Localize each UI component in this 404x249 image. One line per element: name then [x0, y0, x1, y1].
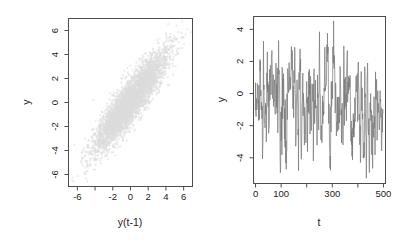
y-tick-label: -2: [234, 121, 245, 129]
x-tick-label: 0: [253, 188, 258, 199]
y-tick-label: 4: [234, 27, 245, 32]
y-tick-label: -6: [49, 170, 60, 178]
y-tick-label: 0: [49, 100, 60, 105]
figure-container: -6-20246-6-4-20246y(t-1)y 0100300500-4-2…: [0, 0, 404, 249]
scatter-plot: -6-20246-6-4-20246y(t-1)y: [0, 0, 202, 249]
y-tick-label: -4: [234, 154, 245, 162]
y-axis-title: y: [215, 96, 227, 102]
x-tick-label: -2: [109, 191, 117, 202]
x-axis-series: 0100300500: [253, 184, 391, 200]
y-axis-series: -4-2024: [234, 27, 254, 162]
x-tick-label: 100: [273, 188, 289, 199]
timeseries-line: [255, 21, 383, 178]
x-tick-label: -6: [73, 191, 81, 202]
x-tick-label: 0: [128, 191, 133, 202]
timeseries-line-group: [255, 21, 383, 178]
y-tick-label: 0: [234, 91, 245, 96]
x-axis-title: y(t-1): [118, 216, 143, 228]
y-tick-label: 4: [49, 52, 60, 57]
y-axis-title: y: [20, 99, 32, 105]
y-tick-label: 2: [49, 76, 60, 81]
x-tick-label: 6: [181, 191, 186, 202]
y-tick-label: 6: [49, 28, 60, 33]
x-axis-title: t: [318, 216, 321, 228]
x-tick-label: 4: [163, 191, 168, 202]
y-axis-scatter: -6-4-20246: [49, 28, 69, 179]
y-tick-label: 2: [234, 59, 245, 64]
y-tick-label: -4: [49, 146, 60, 154]
x-tick-label: 300: [324, 188, 340, 199]
y-tick-label: -2: [49, 122, 60, 130]
scatter-points-group: [68, 20, 192, 182]
x-tick-label: 500: [376, 188, 392, 199]
x-tick-label: 2: [146, 191, 151, 202]
panel-series: 0100300500-4-2024ty: [202, 0, 404, 249]
x-axis-scatter: -6-20246: [73, 187, 186, 203]
timeseries-plot: 0100300500-4-2024ty: [202, 0, 404, 249]
panel-scatter: -6-20246-6-4-20246y(t-1)y: [0, 0, 202, 249]
